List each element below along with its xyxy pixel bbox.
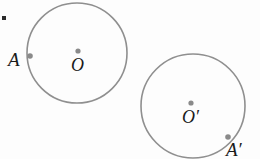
center-dot-o-prime [188, 100, 193, 105]
geometry-figure: A O O′ A′ [0, 0, 260, 159]
point-dot-a [27, 53, 33, 59]
center-dot-o [75, 48, 80, 53]
figure-canvas [0, 0, 260, 159]
label-center-o: O [71, 56, 84, 74]
corner-mark-icon [2, 16, 6, 20]
label-point-a: A [8, 50, 20, 69]
label-point-a-prime: A′ [226, 140, 242, 159]
label-center-o-prime: O′ [182, 108, 199, 126]
